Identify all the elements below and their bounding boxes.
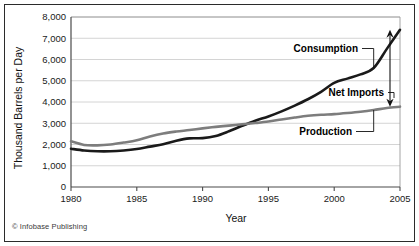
y-tick-label: 0 xyxy=(61,181,66,192)
x-axis-ticks xyxy=(71,187,400,191)
line-chart: 198019851990199520002005 01,0002,0003,00… xyxy=(0,0,419,246)
leader-line-production xyxy=(356,110,374,131)
y-tick-label: 3,000 xyxy=(42,118,66,129)
y-tick-label: 6,000 xyxy=(42,54,66,65)
x-tick-label: 2000 xyxy=(324,193,345,204)
copyright-credit: © Infobase Publishing xyxy=(12,222,87,231)
annotation-label-consumption: Consumption xyxy=(294,43,358,54)
x-tick-label: 1980 xyxy=(60,193,81,204)
annotation-label-production: Production xyxy=(299,126,352,137)
x-axis-title: Year xyxy=(225,212,247,224)
y-tick-label: 1,000 xyxy=(42,160,66,171)
x-axis-tick-labels: 198019851990199520002005 xyxy=(60,193,410,204)
y-axis-tick-labels: 01,0002,0003,0004,0005,0006,0007,0008,00… xyxy=(42,11,66,192)
leader-line-net-imports xyxy=(388,93,394,99)
y-tick-label: 2,000 xyxy=(42,139,66,150)
x-tick-label: 2005 xyxy=(389,193,410,204)
leader-line-consumption xyxy=(362,49,374,69)
annotation-label-net-imports: Net Imports xyxy=(328,87,384,98)
x-tick-label: 1990 xyxy=(192,193,213,204)
y-tick-label: 8,000 xyxy=(42,11,66,22)
chart-figure: 198019851990199520002005 01,0002,0003,00… xyxy=(0,0,419,246)
annotations-group: ConsumptionProductionNet Imports xyxy=(294,30,394,137)
y-tick-label: 7,000 xyxy=(42,33,66,44)
x-tick-label: 1985 xyxy=(126,193,147,204)
y-axis-title: Thousand Barrels per Day xyxy=(12,46,24,169)
y-tick-label: 5,000 xyxy=(42,75,66,86)
x-tick-label: 1995 xyxy=(258,193,279,204)
y-tick-label: 4,000 xyxy=(42,96,66,107)
